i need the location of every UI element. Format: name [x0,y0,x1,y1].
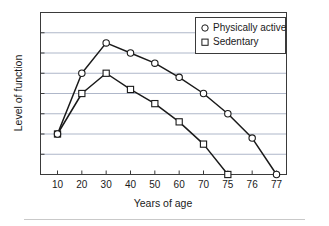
data-point-sedentary [200,141,206,147]
x-axis-tick-label: 76 [247,179,259,190]
line-chart: 10203040506070757677 Physically active S… [0,0,329,226]
data-point-physically-active [79,70,85,76]
x-axis-tick-label: 50 [149,179,161,190]
x-axis-tick-label: 20 [76,179,88,190]
x-axis-tick-label: 30 [101,179,113,190]
x-axis-tick-label: 77 [271,179,283,190]
data-point-sedentary [79,90,85,96]
data-point-physically-active [225,111,231,117]
y-axis-title: Level of function [12,55,24,132]
data-point-physically-active [152,60,158,66]
data-point-sedentary [127,86,133,92]
chart-legend: Physically active Sedentary [196,18,287,54]
data-point-physically-active [176,74,182,80]
legend-label-sedentary: Sedentary [213,36,259,47]
x-axis-tick-label: 10 [52,179,64,190]
data-point-sedentary [176,119,182,125]
data-point-sedentary [225,171,231,177]
x-axis-tick-label: 40 [125,179,137,190]
x-axis-tick-label: 70 [198,179,210,190]
data-point-physically-active [200,90,206,96]
data-point-physically-active [127,50,133,56]
data-point-sedentary [103,70,109,76]
x-axis-tick-label: 60 [174,179,186,190]
data-point-physically-active [103,40,109,46]
x-axis-title: Years of age [134,197,193,209]
legend-label-physically-active: Physically active [213,22,287,33]
data-point-physically-active [249,135,255,141]
circle-marker-icon [202,25,208,31]
x-axis-tick-label: 75 [222,179,234,190]
data-point-sedentary [152,101,158,107]
data-point-physically-active [54,131,60,137]
data-point-physically-active [273,171,279,177]
square-marker-icon [202,39,208,45]
figure-container: 10203040506070757677 Physically active S… [0,0,329,226]
